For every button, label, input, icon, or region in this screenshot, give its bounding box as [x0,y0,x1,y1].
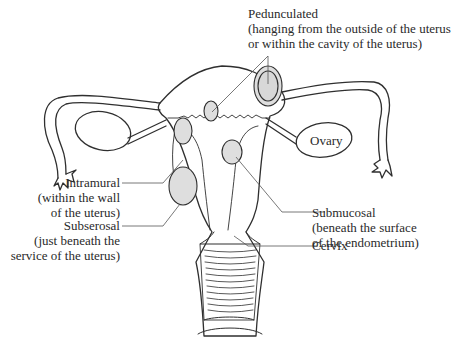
label-submucosal-title: Submucosal [312,205,419,220]
label-subserosal-desc1: (just beneath the [2,233,120,248]
leader-subserosal [122,204,180,226]
leader-submucosal [236,157,325,212]
vaginal-rugae [204,250,256,312]
label-subserosal: Subserosal (just beneath the service of … [2,218,120,263]
label-intramural-title: Intramural [2,175,120,190]
cervical-canal [200,232,260,244]
fibroid-intramural [174,118,192,144]
label-subserosal-desc2: service of the uterus) [2,248,120,263]
label-intramural-desc1: (within the wall [2,190,120,205]
label-submucosal-desc1: (beneath the surface [312,220,419,235]
label-pedunculated-desc1: (hanging from the outside of the uterus [248,21,451,36]
label-pedunculated-desc2: or within the cavity of the uterus) [248,36,451,51]
left-ovary [72,107,135,156]
fibroid-pedunculated-inner [204,101,218,121]
label-cervix: Cervix [312,238,347,253]
label-ovary-title: Ovary [310,133,343,148]
label-pedunculated: Pedunculated (hanging from the outside o… [248,6,451,51]
fibroid-subserosal [169,167,197,205]
label-subserosal-title: Subserosal [2,218,120,233]
label-ovary: Ovary [310,133,343,148]
label-pedunculated-title: Pedunculated [248,6,451,21]
label-intramural: Intramural (within the wall of the uteru… [2,175,120,220]
right-fimbriae [372,160,392,178]
label-cervix-title: Cervix [312,238,347,253]
